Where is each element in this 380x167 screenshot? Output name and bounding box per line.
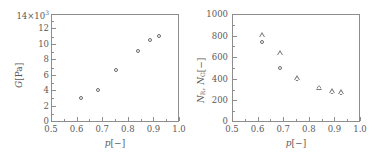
y-minor-tick-right-500 <box>233 68 235 69</box>
y-minor-tick-right-300 <box>233 90 235 91</box>
data-point <box>157 34 161 38</box>
x-tick-left-1 <box>77 117 78 121</box>
x-tick-right-2 <box>283 117 284 121</box>
y-minor-tick-right-700 <box>233 46 235 47</box>
x-tick-right-5 <box>360 117 361 121</box>
x-tick-label-right-5: 1.0 <box>346 124 374 134</box>
data-point <box>294 75 300 80</box>
x-tick-right-4 <box>334 117 335 121</box>
y-tick-label-left-4: 4 <box>4 85 49 95</box>
y-tick-left-2 <box>52 106 56 107</box>
x-minor-tick-left-1 <box>64 119 65 121</box>
y-tick-right-400 <box>233 79 237 80</box>
x-tick-left-3 <box>128 117 129 121</box>
y-tick-left-14 <box>52 14 56 15</box>
y-tick-label-left-6: 6 <box>4 70 49 80</box>
y-minor-tick-left-13 <box>52 21 54 22</box>
y-tick-label-right-1000: 1000 <box>184 9 228 19</box>
x-tick-label-left-0: 0.5 <box>37 124 65 134</box>
plot-frame-right <box>232 14 360 122</box>
x-tick-label-left-1: 0.6 <box>63 124 91 134</box>
chart-panel-right: 1000 800 600 400 200 0 0.5 0.6 0.7 <box>190 0 380 167</box>
chart-panel-left: 14×103 12 10 8 6 4 2 0 <box>0 0 190 167</box>
x-minor-tick-left-2 <box>89 119 90 121</box>
y-axis-title-right: NR, NG[−] <box>196 58 206 103</box>
x-tick-left-2 <box>102 117 103 121</box>
x-minor-tick-right-2 <box>270 119 271 121</box>
y-minor-tick-right-900 <box>233 25 235 26</box>
y-tick-left-8 <box>52 59 56 60</box>
y-tick-left-6 <box>52 75 56 76</box>
data-point <box>277 50 283 55</box>
y-tick-right-800 <box>233 36 237 37</box>
y-tick-right-0 <box>233 121 237 122</box>
x-axis-title-right: p[−] <box>272 138 320 148</box>
x-tick-label-right-2: 0.7 <box>269 124 297 134</box>
y-tick-left-12 <box>52 28 56 29</box>
y-minor-tick-left-11 <box>52 37 54 38</box>
y-minor-tick-right-100 <box>233 111 235 112</box>
y-tick-right-1000 <box>233 14 237 15</box>
data-point <box>278 66 282 70</box>
figure-root: 14×103 12 10 8 6 4 2 0 <box>0 0 380 167</box>
data-point <box>338 89 344 94</box>
x-tick-left-4 <box>153 117 154 121</box>
y-minor-tick-left-1 <box>52 114 54 115</box>
x-minor-tick-left-5 <box>166 119 167 121</box>
data-point <box>316 85 322 90</box>
x-minor-tick-right-4 <box>322 119 323 121</box>
data-point <box>79 96 83 100</box>
y-tick-right-200 <box>233 100 237 101</box>
x-tick-right-1 <box>258 117 259 121</box>
x-axis-title-left: p[−] <box>91 138 139 148</box>
x-tick-label-right-4: 0.9 <box>320 124 348 134</box>
y-tick-label-left-8: 8 <box>4 54 49 64</box>
x-tick-label-left-3: 0.8 <box>114 124 142 134</box>
x-tick-label-left-4: 0.9 <box>139 124 167 134</box>
y-tick-label-right-800: 800 <box>184 31 228 41</box>
y-tick-label-left-2: 2 <box>4 101 49 111</box>
x-tick-label-right-3: 0.8 <box>295 124 323 134</box>
y-tick-right-600 <box>233 57 237 58</box>
x-minor-tick-right-5 <box>347 119 348 121</box>
y-minor-tick-left-3 <box>52 98 54 99</box>
y-minor-tick-left-9 <box>52 52 54 53</box>
y-tick-left-0 <box>52 121 56 122</box>
y-tick-left-10 <box>52 44 56 45</box>
y-tick-label-left-12: 12 <box>4 23 49 33</box>
data-point <box>259 32 265 37</box>
data-point <box>136 49 140 53</box>
y-tick-label-left-10: 10 <box>4 39 49 49</box>
x-tick-label-right-1: 0.6 <box>244 124 272 134</box>
y-exponent-label-left: 14×103 <box>4 9 49 21</box>
x-minor-tick-right-3 <box>296 119 297 121</box>
x-tick-label-left-2: 0.7 <box>88 124 116 134</box>
y-tick-left-4 <box>52 90 56 91</box>
y-minor-tick-left-7 <box>52 68 54 69</box>
x-minor-tick-left-3 <box>115 119 116 121</box>
y-axis-title-left: G[Pa] <box>14 63 24 88</box>
data-point <box>329 88 335 93</box>
x-tick-left-5 <box>179 117 180 121</box>
data-point <box>114 68 118 72</box>
x-tick-label-right-0: 0.5 <box>218 124 246 134</box>
x-tick-right-3 <box>309 117 310 121</box>
x-tick-right-0 <box>232 117 233 121</box>
x-minor-tick-right-1 <box>245 119 246 121</box>
x-minor-tick-left-4 <box>141 119 142 121</box>
x-tick-left-0 <box>51 117 52 121</box>
y-minor-tick-left-5 <box>52 83 54 84</box>
